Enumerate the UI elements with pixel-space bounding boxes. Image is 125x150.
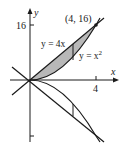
diagram-canvas: y x 16 4 (4, 16) y = 4x y = x2 bbox=[0, 0, 125, 150]
line-label: y = 4x bbox=[41, 39, 66, 49]
y-axis-label: y bbox=[33, 7, 39, 18]
area-between-curves-figure: y x 16 4 (4, 16) y = 4x y = x2 bbox=[0, 0, 125, 150]
x-tick-label-4: 4 bbox=[93, 83, 98, 94]
parabola-reflected bbox=[30, 80, 100, 142]
parabola-label: y = x2 bbox=[79, 49, 103, 61]
parabola-label-exponent: 2 bbox=[99, 49, 103, 57]
line-reflected bbox=[12, 67, 104, 142]
y-tick-label-16: 16 bbox=[16, 20, 26, 31]
point-4-16 bbox=[94, 23, 98, 27]
x-axis-arrow-icon bbox=[113, 78, 119, 83]
y-axis-arrow-icon bbox=[28, 8, 33, 14]
point-label: (4, 16) bbox=[65, 13, 92, 25]
x-axis-label: x bbox=[110, 66, 116, 77]
parabola-label-text: y = x bbox=[79, 51, 99, 61]
